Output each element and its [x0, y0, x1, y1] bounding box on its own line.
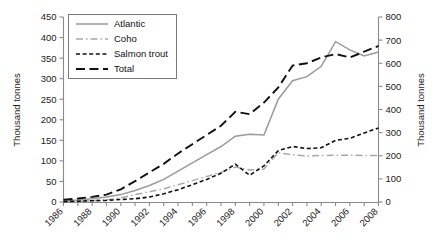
- x-axis: 1986198819901992199419961998200020022004…: [42, 202, 380, 228]
- left-tick-label: 50: [46, 176, 57, 187]
- series-salmon-trout: [64, 128, 379, 202]
- x-axis-labels: 1986198819901992199419961998200020022004…: [42, 206, 380, 229]
- legend-label-atlantic: Atlantic: [114, 18, 145, 29]
- series-coho: [64, 153, 379, 202]
- left-tick-label: 450: [41, 11, 57, 22]
- right-tick-label: 0: [386, 196, 391, 207]
- x-tick-label: 2000: [243, 206, 266, 229]
- chart-container: 050100150200250300350400450 010020030040…: [0, 0, 436, 252]
- right-tick-label: 100: [386, 173, 402, 184]
- left-tick-label: 400: [41, 32, 57, 43]
- x-tick-label: 1986: [42, 206, 65, 229]
- x-tick-label: 1988: [71, 206, 94, 229]
- x-tick-label: 2008: [357, 206, 380, 229]
- x-tick-label: 1992: [128, 206, 151, 229]
- right-tick-label: 700: [386, 35, 402, 46]
- right-y-axis: 0100200300400500600700800: [379, 11, 402, 207]
- x-tick-label: 2006: [329, 206, 352, 229]
- x-tick-label: 1994: [157, 206, 180, 229]
- right-tick-label: 300: [386, 127, 402, 138]
- right-axis-title: Thousand tonnes: [415, 73, 426, 147]
- left-y-axis: 050100150200250300350400450: [41, 11, 64, 207]
- right-axis-ticks: 0100200300400500600700800: [379, 11, 402, 207]
- legend-label-coho: Coho: [114, 33, 137, 44]
- x-tick-label: 1996: [185, 206, 208, 229]
- left-tick-label: 350: [41, 53, 57, 64]
- right-tick-label: 400: [386, 104, 402, 115]
- left-tick-label: 150: [41, 135, 57, 146]
- right-tick-label: 200: [386, 150, 402, 161]
- left-tick-label: 300: [41, 73, 57, 84]
- left-tick-label: 250: [41, 94, 57, 105]
- right-tick-label: 500: [386, 81, 402, 92]
- line-chart: 050100150200250300350400450 010020030040…: [0, 0, 436, 252]
- x-tick-label: 2002: [271, 206, 294, 229]
- x-tick-label: 1990: [99, 206, 122, 229]
- legend: AtlanticCohoSalmon troutTotal: [69, 15, 177, 79]
- x-tick-label: 2004: [300, 206, 323, 229]
- x-tick-label: 1998: [214, 206, 237, 229]
- legend-label-salmon-trout: Salmon trout: [114, 48, 168, 59]
- right-tick-label: 800: [386, 11, 402, 22]
- left-axis-title: Thousand tonnes: [11, 73, 22, 147]
- legend-label-total: Total: [114, 63, 134, 74]
- right-tick-label: 600: [386, 58, 402, 69]
- left-tick-label: 200: [41, 114, 57, 125]
- left-axis-ticks: 050100150200250300350400450: [41, 11, 64, 207]
- left-tick-label: 100: [41, 155, 57, 166]
